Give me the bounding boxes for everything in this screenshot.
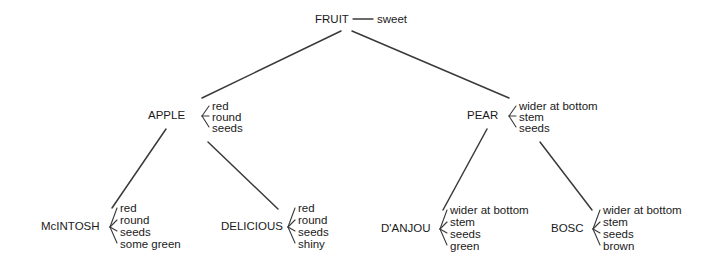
attribute-label-danjou-2: seeds <box>450 228 481 240</box>
attribute-label-mcintosh-3: some green <box>120 238 181 250</box>
attribute-label-danjou-1: stem <box>450 216 475 228</box>
attribute-label-delicious-3: shiny <box>298 238 325 250</box>
attribute-label-mcintosh-0: red <box>120 202 137 214</box>
node-label-delicious: DELICIOUS <box>221 220 283 232</box>
node-label-mcintosh: McINTOSH <box>41 220 100 232</box>
fruit-taxonomy-diagram: FRUIT sweet APPLE red round seeds PEAR w… <box>0 0 711 271</box>
tree-edge-fruit-apple <box>202 31 341 98</box>
node-label-bosc: BOSC <box>551 222 584 234</box>
tree-edge-pear-bosc <box>540 142 592 210</box>
attribute-label-apple-2: seeds <box>212 122 243 134</box>
tree-edge-pear-danjou <box>443 129 487 210</box>
attribute-bracket-apple <box>202 106 209 127</box>
attribute-bracket-pear <box>509 106 516 127</box>
attribute-label-delicious-1: round <box>298 214 327 226</box>
attribute-bracket-danjou <box>440 210 447 245</box>
attribute-label-mcintosh-2: seeds <box>120 226 151 238</box>
node-label-apple: APPLE <box>148 109 185 121</box>
attribute-label-mcintosh-1: round <box>120 214 149 226</box>
property-label-sweet: sweet <box>377 13 408 25</box>
attribute-label-danjou-0: wider at bottom <box>449 204 529 216</box>
node-label-danjou: D'ANJOU <box>381 222 430 234</box>
tree-edge-apple-mcintosh <box>112 129 166 208</box>
attribute-label-bosc-2: seeds <box>603 228 634 240</box>
tree-edge-apple-delicious <box>208 142 278 209</box>
attribute-label-bosc-0: wider at bottom <box>602 204 682 216</box>
node-label-fruit: FRUIT <box>315 13 349 25</box>
attribute-bracket-delicious <box>288 208 295 243</box>
attribute-label-pear-2: seeds <box>519 122 550 134</box>
tree-edge-fruit-pear <box>352 31 509 98</box>
attribute-bracket-mcintosh <box>110 208 117 243</box>
node-label-pear: PEAR <box>467 109 498 121</box>
attribute-label-bosc-3: brown <box>603 240 634 252</box>
attribute-bracket-bosc <box>593 210 600 245</box>
attribute-label-bosc-1: stem <box>603 216 628 228</box>
attribute-label-delicious-2: seeds <box>298 226 329 238</box>
attribute-label-danjou-3: green <box>450 240 479 252</box>
attribute-label-delicious-0: red <box>298 202 315 214</box>
